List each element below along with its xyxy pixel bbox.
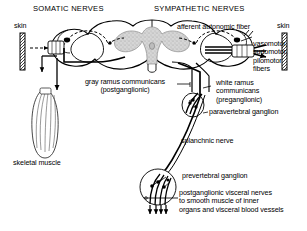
- synapse-dot: [192, 41, 195, 44]
- label-afferent-autonomic-fiber: afferent autonomic fiber: [177, 23, 250, 30]
- prevertebral-ganglion: [140, 169, 178, 214]
- label-vasomotor-fibers: vasomotor, sudomotor, pilomotor fibers: [253, 40, 288, 74]
- skin-bar-left: [20, 33, 25, 70]
- heading-somatic-nerves: SOMATIC NERVES: [33, 5, 104, 13]
- label-skin-right: skin: [277, 22, 289, 29]
- label-postganglionic-visceral-nerves: postganglionic visceral nerves to smooth…: [179, 189, 284, 214]
- label-white-ramus-communicans: white ramus communicans (preganglionic): [216, 79, 262, 104]
- label-prevertebral-ganglion: prevertebral ganglion: [182, 172, 247, 179]
- heading-sympathetic-nerves: SYMPATHETIC NERVES: [154, 5, 245, 13]
- nerve-pathway-diagram: SOMATIC NERVES SYMPATHETIC NERVES skin s…: [0, 0, 307, 231]
- label-gray-ramus-communicans: gray ramus communicans (postganglionic): [70, 78, 180, 95]
- label-paravertebral-ganglion: paravertebral ganglion: [209, 108, 278, 115]
- label-skeletal-muscle: skeletal muscle: [13, 159, 61, 166]
- skeletal-muscle: [32, 88, 58, 158]
- label-skin-left: skin: [14, 22, 26, 29]
- label-splanchnic-nerve: splanchnic nerve: [181, 137, 233, 144]
- peripheral-nerve-sheath-left: [48, 41, 64, 54]
- paravertebral-leader: [203, 112, 208, 113]
- synapse-dot: [108, 41, 111, 44]
